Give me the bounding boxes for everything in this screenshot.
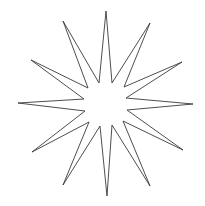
starburst-illustration <box>0 0 205 206</box>
background-rect <box>0 0 205 206</box>
image-canvas <box>0 0 205 206</box>
